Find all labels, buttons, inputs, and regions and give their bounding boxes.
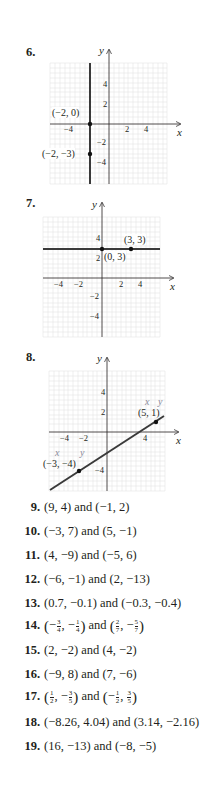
graph-7-x-label: x: [170, 280, 175, 292]
exercise-number: 17.: [20, 689, 40, 704]
graph-8-x-label: x: [176, 434, 181, 446]
graph-8-point-label: (−3, −4): [43, 458, 76, 469]
graph-8-x-tick: −2: [79, 433, 88, 443]
exercise-text: (0.7, −0.1) and (−0.3, −0.4): [44, 596, 181, 610]
exercise-number: 11.: [20, 548, 40, 563]
graph-8-point-label: (5, 1): [138, 407, 160, 418]
graph-8-point-1: [77, 469, 81, 473]
handwritten-x-annotation: x: [145, 396, 149, 407]
handwritten-x-annotation: x: [55, 447, 59, 458]
graph-6-point-label: (−2, 0): [52, 107, 79, 118]
graph-7-y-arrow-icon: [100, 202, 105, 207]
exercise-14: 14.(−34, −14) and (27, −57): [20, 618, 144, 634]
graph-8-x-tick: −4: [60, 433, 69, 443]
handwritten-y-annotation: y: [158, 396, 162, 407]
problem-number-7: 7.: [26, 196, 35, 211]
exercise-number: 15.: [20, 643, 40, 658]
graph-6-point-2: [88, 152, 92, 156]
graph-8-point-2: [154, 420, 158, 424]
graph-8-y-label: y: [97, 352, 102, 364]
exercise-18: 18.(−8.26, 4.04) and (3.14, −2.16): [20, 715, 199, 730]
graph-6-y-label: y: [99, 44, 104, 56]
graph-7-point-2: [129, 247, 133, 251]
graph-7-y-tick: 2: [96, 253, 100, 263]
exercise-number: 13.: [20, 596, 40, 611]
graph-6-y-tick: 4: [103, 79, 107, 89]
exercise-13: 13.(0.7, −0.1) and (−0.3, −0.4): [20, 596, 181, 611]
exercise-16: 16.(−9, 8) and (7, −6): [20, 667, 137, 682]
exercise-text: (2, −2) and (4, −2): [44, 643, 137, 657]
exercise-17: 17.(12, −35) and (−12, 35): [20, 689, 137, 705]
exercise-12: 12.(−6, −1) and (2, −13): [20, 572, 150, 587]
exercise-15: 15.(2, −2) and (4, −2): [20, 643, 137, 658]
graph-6-y-tick: −2: [97, 137, 106, 147]
graph-6-point-1: [88, 122, 92, 126]
graph-6-point-label: (−2, −3): [42, 148, 75, 159]
exercise-number: 12.: [20, 572, 40, 587]
exercise-number: 19.: [20, 739, 40, 754]
graph-8-grid: [49, 371, 165, 491]
exercise-19: 19.(16, −13) and (−8, −5): [20, 739, 156, 754]
graph-8-y-tick: 2: [101, 407, 105, 417]
graph-8-y-tick: −4: [95, 465, 104, 475]
graph-6-x-label: x: [177, 126, 182, 138]
graph-6-x-tick: 4: [144, 124, 148, 134]
exercise-text: (4, −9) and (−5, 6): [44, 548, 137, 562]
problem-number-6: 6.: [26, 45, 35, 60]
graph-8-y-tick: 4: [101, 387, 105, 397]
graph-6-x-tick: −4: [64, 124, 73, 134]
problem-number-8: 8.: [26, 350, 35, 365]
graph-7-x-tick: 4: [138, 279, 142, 289]
graph-7-x-tick: −2: [74, 279, 83, 289]
exercise-text: (−3, 7) and (5, −1): [44, 524, 137, 538]
graph-6-y-tick: −4: [97, 157, 106, 167]
exercise-11: 11.(4, −9) and (−5, 6): [20, 548, 137, 563]
graph-7-x-tick: −4: [54, 279, 63, 289]
exercise-number: 14.: [20, 618, 40, 633]
exercise-text: (9, 4) and (−1, 2): [44, 500, 130, 514]
exercise-number: 10.: [20, 524, 40, 539]
exercise-number: 9.: [20, 500, 40, 515]
graph-8-line: [50, 416, 164, 490]
graph-8-y-arrow-icon: [105, 357, 110, 362]
exercise-number: 18.: [20, 715, 40, 730]
exercise-number: 16.: [20, 667, 40, 682]
graph-6-y-tick: 2: [103, 99, 107, 109]
graph-7-x-tick: 2: [119, 279, 123, 289]
graph-8-x-tick: 4: [143, 433, 147, 443]
graph-7-y-tick: −2: [90, 291, 99, 301]
graph-7-y-label: y: [92, 198, 97, 210]
exercise-text: (−6, −1) and (2, −13): [44, 572, 150, 586]
graph-7-y-tick: −4: [90, 311, 99, 321]
exercise-text: (−8.26, 4.04) and (3.14, −2.16): [44, 715, 199, 729]
handwritten-y-annotation: y: [80, 447, 84, 458]
graph-7-point-label: (0, 3): [104, 251, 126, 262]
exercise-text: (−9, 8) and (7, −6): [44, 667, 137, 681]
graph-6-x-tick: 2: [125, 124, 129, 134]
graph-7-point-label: (3, 3): [124, 234, 146, 245]
graph-6-y-arrow-icon: [107, 49, 112, 54]
graph-7-y-tick: 4: [96, 233, 100, 243]
exercise-text: (16, −13) and (−8, −5): [44, 739, 156, 753]
exercise-10: 10.(−3, 7) and (5, −1): [20, 524, 137, 539]
exercise-9: 9.(9, 4) and (−1, 2): [20, 500, 130, 515]
